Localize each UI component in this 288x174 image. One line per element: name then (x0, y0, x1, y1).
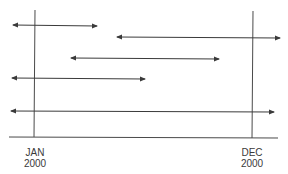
dec-label-month: DEC (232, 147, 272, 158)
jan-label-year: 2000 (15, 158, 55, 169)
dec-label-year: 2000 (232, 158, 272, 169)
baseline-axis (9, 137, 278, 138)
interval-arrow-2 (117, 37, 280, 38)
interval-arrow-4 (12, 78, 145, 79)
interval-arrow-1 (13, 25, 97, 26)
jan-2000-label: JAN 2000 (15, 147, 55, 169)
interval-arrow-3 (71, 58, 219, 59)
jan-2000-marker-line (34, 10, 35, 137)
dec-2000-marker-line (252, 11, 253, 138)
interval-arrow-5 (11, 111, 274, 112)
jan-label-month: JAN (15, 147, 55, 158)
dec-2000-label: DEC 2000 (232, 147, 272, 169)
interval-arrows (11, 25, 280, 112)
